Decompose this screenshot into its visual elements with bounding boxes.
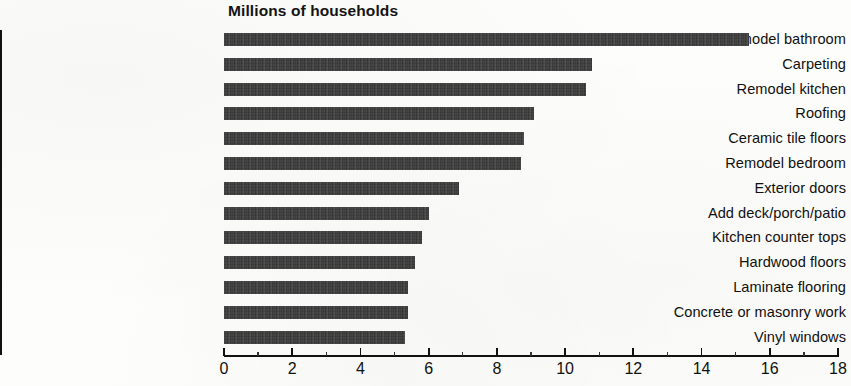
x-axis-tick (291, 348, 293, 356)
x-axis-tick (701, 348, 703, 356)
category-label: Roofing (631, 105, 851, 121)
category-label: Add deck/porch/patio (631, 205, 851, 221)
bar (224, 107, 534, 120)
x-axis-minor-tick (803, 352, 804, 356)
category-label: Remodel bedroom (631, 155, 851, 171)
x-axis-tick (223, 348, 225, 356)
x-axis-tick (496, 348, 498, 356)
bar (224, 182, 459, 195)
bar (224, 331, 405, 344)
category-label: Exterior doors (631, 180, 851, 196)
bar (224, 306, 408, 319)
category-label: Carpeting (631, 56, 851, 72)
x-axis-tick (428, 348, 430, 356)
x-axis-minor-tick (599, 352, 600, 356)
bar (224, 58, 592, 71)
x-axis-tick-label: 18 (829, 360, 847, 378)
category-label: Concrete or masonry work (631, 304, 851, 320)
bar (224, 83, 586, 96)
x-axis-tick (632, 348, 634, 356)
bar (224, 157, 521, 170)
x-axis-minor-tick (530, 352, 531, 356)
x-axis-minor-tick (326, 352, 327, 356)
x-axis-tick-label: 16 (761, 360, 779, 378)
x-axis-minor-tick (257, 352, 258, 356)
category-label: Hardwood floors (631, 254, 851, 270)
category-label: Ceramic tile floors (631, 130, 851, 146)
y-axis-line (0, 30, 2, 355)
bar (224, 231, 422, 244)
x-axis-minor-tick (394, 352, 395, 356)
category-label: Remodel kitchen (631, 81, 851, 97)
x-axis-tick-label: 0 (220, 360, 229, 378)
x-axis-tick (769, 348, 771, 356)
x-axis-tick-label: 6 (424, 360, 433, 378)
chart-title: Millions of households (228, 2, 398, 20)
x-axis-tick-label: 2 (288, 360, 297, 378)
x-axis-tick-label: 8 (492, 360, 501, 378)
bar (224, 256, 415, 269)
x-axis-minor-tick (462, 352, 463, 356)
x-axis-minor-tick (667, 352, 668, 356)
category-label: Laminate flooring (631, 279, 851, 295)
x-axis-minor-tick (735, 352, 736, 356)
x-axis-tick (837, 348, 839, 356)
bar (224, 132, 524, 145)
x-axis-tick-label: 12 (624, 360, 642, 378)
bar (224, 33, 749, 46)
category-label: Kitchen counter tops (631, 229, 851, 245)
bar-chart: Millions of households Remodel bathroomC… (0, 0, 851, 386)
x-axis-tick-label: 4 (356, 360, 365, 378)
x-axis-tick (564, 348, 566, 356)
x-axis-tick-label: 10 (556, 360, 574, 378)
x-axis-tick (360, 348, 362, 356)
bar (224, 281, 408, 294)
category-label: Vinyl windows (631, 329, 851, 345)
x-axis-tick-label: 14 (693, 360, 711, 378)
bar (224, 207, 429, 220)
